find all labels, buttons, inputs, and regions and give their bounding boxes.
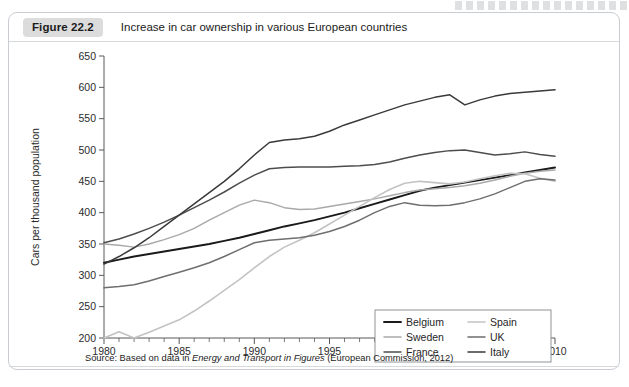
y-axis-tick-label: 600 [78, 81, 96, 93]
figure-title: Increase in car ownership in various Eur… [121, 21, 407, 33]
legend-label-spain: Spain [490, 316, 517, 328]
page-header-strip [455, 1, 627, 10]
y-axis-tick-label: 450 [78, 175, 96, 187]
legend-label-uk: UK [490, 331, 505, 343]
series-line-sweden [104, 170, 555, 247]
y-axis-tick-label: 500 [78, 144, 96, 156]
y-axis-title: Cars per thousand population [29, 128, 41, 266]
figure-card: Figure 22.2 Increase in car ownership in… [8, 12, 620, 370]
y-axis-tick-label: 300 [78, 269, 96, 281]
y-axis-tick-label: 400 [78, 206, 96, 218]
source-caption: Source: Based on data in Energy and Tran… [85, 353, 615, 363]
legend-label-sweden: Sweden [406, 331, 444, 343]
y-axis-tick-label: 200 [78, 332, 96, 344]
y-axis-tick-label: 650 [78, 50, 96, 62]
footer-divider [9, 366, 619, 367]
line-chart: 2002503003504004505005506006501980198519… [9, 42, 621, 370]
figure-number-badge: Figure 22.2 [23, 18, 103, 37]
legend-label-belgium: Belgium [406, 316, 444, 328]
chart-plot-area: 2002503003504004505005506006501980198519… [9, 42, 621, 370]
y-axis-tick-label: 250 [78, 300, 96, 312]
source-prefix: Source: Based on data in [85, 353, 192, 363]
source-title-italic: Energy and Transport in Figures [192, 353, 325, 363]
y-axis-tick-label: 550 [78, 112, 96, 124]
figure-header: Figure 22.2 Increase in car ownership in… [9, 13, 619, 41]
y-axis-tick-label: 350 [78, 238, 96, 250]
source-suffix: (European Commission, 2012) [325, 353, 454, 363]
series-line-uk [104, 179, 555, 288]
